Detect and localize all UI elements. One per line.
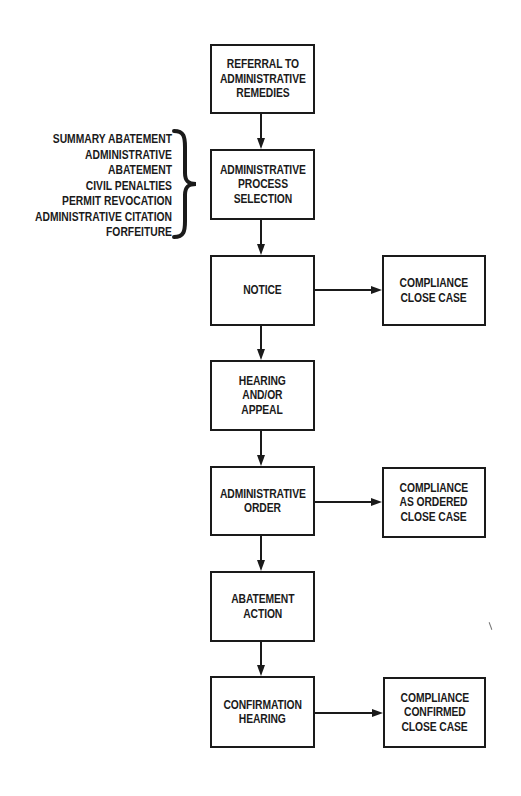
arrowhead-down-icon (257, 455, 265, 466)
box-text: NOTICE (243, 283, 281, 298)
box-text: REMEDIES (236, 86, 289, 101)
box-process-selection: ADMINISTRATIVE PROCESS SELECTION (210, 149, 315, 220)
box-text: ABATEMENT (231, 592, 294, 607)
box-confirmation: CONFIRMATION HEARING (210, 676, 315, 748)
option-summary-abatement: SUMMARY ABATEMENT (24, 132, 172, 148)
box-text: CONFIRMATION (223, 698, 301, 713)
arrowhead-right-icon (371, 498, 382, 506)
option-forfeiture: FORFEITURE (24, 225, 172, 241)
box-referral: REFERRAL TO ADMINISTRATIVE REMEDIES (210, 44, 315, 114)
option-permit-revocation: PERMIT REVOCATION (24, 194, 172, 210)
box-text: CLOSE CASE (401, 510, 467, 525)
box-admin-order: ADMINISTRATIVE ORDER (210, 466, 315, 536)
box-text: CONFIRMED (404, 705, 466, 720)
box-hearing: HEARING AND/OR APPEAL (210, 360, 315, 431)
box-text: PROCESS (238, 177, 288, 192)
box-text: ADMINISTRATIVE (220, 72, 306, 87)
box-compliance-confirmed: COMPLIANCE CONFIRMED CLOSE CASE (383, 677, 486, 748)
arrowhead-down-icon (257, 244, 265, 255)
arrowhead-down-icon (257, 665, 265, 676)
process-options-list: SUMMARY ABATEMENT ADMINISTRATIVE ABATEME… (0, 132, 172, 241)
arrowhead-right-icon (372, 709, 383, 717)
box-compliance-close: COMPLIANCE CLOSE CASE (382, 255, 486, 326)
box-text: ADMINISTRATIVE (220, 163, 306, 178)
box-text: CLOSE CASE (401, 720, 467, 735)
arrowhead-down-icon (257, 560, 265, 571)
scan-artifact-mark (489, 622, 493, 630)
box-text: COMPLIANCE (400, 276, 469, 291)
box-text: AND/OR (242, 388, 282, 403)
arrowhead-down-icon (257, 138, 265, 149)
option-civil-penalties: CIVIL PENALTIES (24, 179, 172, 195)
box-compliance-ordered: COMPLIANCE AS ORDERED CLOSE CASE (382, 467, 486, 538)
curly-brace-icon (172, 129, 198, 239)
box-text: ORDER (244, 501, 281, 516)
box-text: AS ORDERED (400, 495, 468, 510)
box-text: SELECTION (233, 192, 291, 207)
option-administrative-citation: ADMINISTRATIVE CITATION (24, 210, 172, 226)
option-abatement: ABATEMENT (24, 163, 172, 179)
box-text: ADMINISTRATIVE (220, 487, 306, 502)
box-text: CLOSE CASE (401, 291, 467, 306)
arrowhead-down-icon (257, 349, 265, 360)
box-notice: NOTICE (210, 255, 315, 326)
box-abatement: ABATEMENT ACTION (210, 571, 315, 642)
box-text: HEARING (239, 712, 286, 727)
option-administrative: ADMINISTRATIVE (24, 148, 172, 164)
box-text: ACTION (243, 607, 282, 622)
box-text: HEARING (239, 374, 286, 389)
box-text: REFERRAL TO (226, 57, 298, 72)
box-text: COMPLIANCE (400, 481, 469, 496)
box-text: COMPLIANCE (400, 691, 469, 706)
box-text: APPEAL (242, 403, 283, 418)
arrowhead-right-icon (371, 286, 382, 294)
